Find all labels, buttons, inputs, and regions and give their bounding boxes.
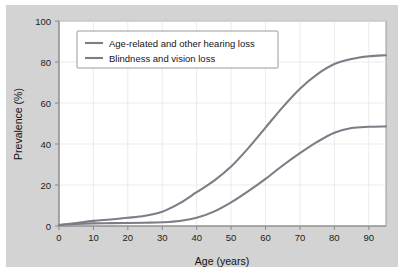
y-axis-title: Prevalence (%)	[12, 88, 24, 160]
legend-label-1: Age-related and other hearing loss	[109, 38, 255, 49]
x-tick-label: 0	[56, 232, 61, 243]
legend-label-2: Blindness and vision loss	[109, 53, 215, 64]
x-axis-title: Age (years)	[195, 255, 249, 267]
x-tick-label: 20	[123, 232, 134, 243]
x-tick-label: 50	[226, 232, 237, 243]
line-chart: 0102030405060708090020406080100 Age (yea…	[0, 0, 404, 278]
x-tick-label: 70	[295, 232, 306, 243]
x-tick-label: 80	[329, 232, 340, 243]
x-tick-label: 30	[157, 232, 168, 243]
y-tick-label: 20	[40, 180, 51, 191]
y-tick-label: 0	[46, 221, 51, 232]
x-tick-label: 90	[364, 232, 375, 243]
y-tick-label: 40	[40, 139, 51, 150]
y-tick-label: 60	[40, 98, 51, 109]
y-tick-label: 80	[40, 57, 51, 68]
x-tick-label: 40	[191, 232, 202, 243]
y-tick-label: 100	[35, 16, 51, 27]
chart-legend: Age-related and other hearing lossBlindn…	[77, 31, 278, 68]
x-tick-label: 10	[88, 232, 99, 243]
x-tick-label: 60	[260, 232, 271, 243]
chart-figure: 0102030405060708090020406080100 Age (yea…	[0, 0, 404, 278]
